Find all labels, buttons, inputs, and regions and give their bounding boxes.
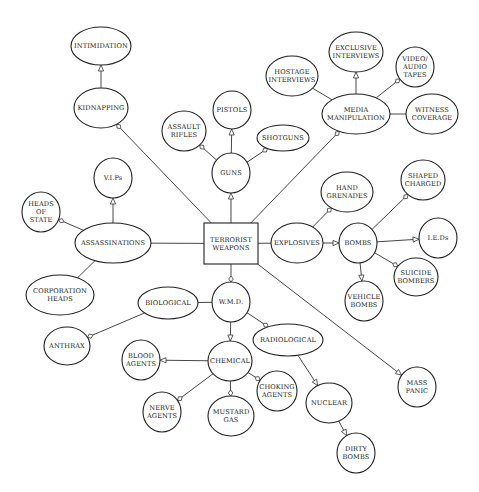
connector-line (204, 149, 216, 160)
connector-line (248, 372, 255, 377)
node-wmd[interactable]: W.M.D. (212, 282, 250, 322)
node-label: GUNS (220, 169, 242, 177)
node-biological[interactable]: BIOLOGICAL (138, 287, 198, 319)
node-label: PISTOLS (217, 106, 248, 114)
node-label: GAS (224, 416, 239, 424)
edge-explosives-to-hand-grenades (313, 208, 332, 227)
node-guns[interactable]: GUNS (212, 153, 250, 193)
edge-guns-to-shotguns (247, 148, 267, 162)
node-label: INTERVIEWS (333, 52, 380, 60)
edge-wmd-to-radiological (247, 313, 268, 327)
diamond-arrowhead-icon (335, 131, 339, 135)
connector-line (64, 222, 83, 230)
connector-line (376, 83, 395, 98)
node-terrorist-weapons[interactable]: TERRORISTWEAPONS (204, 223, 258, 264)
node-nerve-agents[interactable]: NERVEAGENTS (143, 392, 181, 432)
node-label: EXCLUSIVE (335, 44, 377, 52)
node-media-manipulation[interactable]: MEDIAMANIPULATION (322, 94, 390, 134)
diamond-arrowhead-icon (263, 148, 268, 152)
node-label: ASSASSINATIONS (80, 239, 146, 247)
nodes-layer: TERRORISTWEAPONSINTIMIDATIONKIDNAPPINGAS… (22, 27, 458, 473)
node-kidnapping[interactable]: KIDNAPPING (74, 88, 128, 128)
node-label: MANIPULATION (327, 114, 385, 122)
node-label: AUDIO (402, 63, 428, 71)
edge-kidnapping-to-intimidation (98, 65, 103, 88)
node-video-audio-tapes[interactable]: VIDEO/AUDIOTAPES (396, 47, 434, 87)
triangle-arrowhead-icon (395, 369, 401, 375)
diamond-arrowhead-icon (327, 208, 331, 212)
edge-guns-to-assault-rifles (200, 145, 217, 160)
connector-line (93, 313, 145, 335)
edge-assassinations-to-heads-of-state (59, 219, 84, 231)
connector-line (313, 212, 327, 227)
edge-chemical-to-nerve-agents (177, 374, 213, 401)
node-shaped-charged[interactable]: SHAPEDCHARGED (401, 160, 445, 200)
edge-assassinations-to-corporation-heads (77, 261, 95, 278)
node-label: ANTHRAX (48, 342, 85, 350)
node-mass-panic[interactable]: MASSPANIC (398, 367, 436, 407)
node-hand-grenades[interactable]: HANDGRENADES (321, 172, 373, 212)
node-label: V.I.Ps (103, 174, 123, 182)
node-ieds[interactable]: I.E.Ds (419, 218, 457, 258)
node-label: COVERAGE (412, 114, 453, 122)
node-vips[interactable]: V.I.Ps (94, 158, 132, 198)
node-radiological[interactable]: RADIOLOGICAL (253, 324, 323, 356)
node-label: MUSTARD (213, 408, 250, 416)
node-label: MASS (407, 379, 428, 387)
node-label: HOSTAGE (274, 68, 309, 76)
node-assassinations[interactable]: ASSASSINATIONS (75, 223, 151, 263)
edge-radiological-to-nuclear (298, 355, 318, 385)
diagram-canvas: TERRORISTWEAPONSINTIMIDATIONKIDNAPPINGAS… (0, 0, 479, 492)
node-blood-agents[interactable]: BLOODAGENTS (122, 340, 160, 380)
node-label: ASSAULT (167, 123, 201, 131)
node-corporation-heads[interactable]: CORPORATIONHEADS (26, 275, 94, 315)
node-bombs[interactable]: BOMBS (339, 223, 377, 263)
edge-terrorist-weapons-to-guns (228, 193, 233, 223)
edge-guns-to-pistols (229, 129, 234, 153)
triangle-arrowhead-icon (353, 72, 358, 78)
node-explosives[interactable]: EXPLOSIVES (271, 223, 323, 263)
triangle-arrowhead-icon (341, 429, 346, 436)
edge-bombs-to-suicide-bombers (375, 253, 398, 267)
node-heads-of-state[interactable]: HEADSOFSTATE (22, 192, 60, 232)
node-chemical[interactable]: CHEMICAL (208, 341, 252, 381)
node-label: AGENTS (261, 391, 293, 399)
node-intimidation[interactable]: INTIMIDATION (71, 27, 131, 65)
node-label: NUCLEAR (311, 399, 348, 407)
node-label: PANIC (406, 387, 429, 395)
edge-chemical-to-choking-agents (248, 372, 260, 380)
diamond-arrowhead-icon (395, 79, 400, 83)
node-dirty-bombs[interactable]: DIRTYBOMBS (337, 433, 375, 473)
node-suicide-bombers[interactable]: SUICIDEBOMBERS (394, 258, 438, 296)
diamond-arrowhead-icon (255, 377, 260, 381)
node-anthrax[interactable]: ANTHRAX (44, 327, 90, 365)
node-nuclear[interactable]: NUCLEAR (306, 383, 352, 423)
node-exclusive-interviews[interactable]: EXCLUSIVEINTERVIEWS (329, 32, 383, 72)
node-hostage-interviews[interactable]: HOSTAGEINTERVIEWS (266, 56, 318, 96)
connector-line (182, 374, 213, 397)
node-label: SHAPED (408, 172, 438, 180)
triangle-arrowhead-icon (228, 335, 233, 341)
connector-line (360, 263, 361, 275)
node-choking-agents[interactable]: CHOKINGAGENTS (257, 371, 297, 411)
connector-line (375, 253, 393, 264)
node-vehicle-bombs[interactable]: VEHICLEBOMBS (345, 281, 383, 321)
node-assault-rifles[interactable]: ASSAULTRIFLES (162, 111, 206, 151)
edge-assassinations-to-vips (110, 198, 115, 223)
edge-chemical-to-mustard-gas (228, 381, 233, 396)
triangle-arrowhead-icon (229, 129, 234, 135)
node-shotguns[interactable]: SHOTGUNS (257, 125, 309, 151)
diamond-arrowhead-icon (200, 145, 204, 149)
node-label: TERRORIST (210, 236, 252, 244)
node-witness-coverage[interactable]: WITNESSCOVERAGE (406, 94, 458, 134)
node-label: VEHICLE (347, 293, 381, 301)
node-label: INTIMIDATION (74, 42, 128, 50)
diamond-arrowhead-icon (228, 390, 233, 396)
node-label: BOMBERS (398, 277, 435, 285)
triangle-arrowhead-icon (98, 65, 103, 71)
edge-bombs-to-vehicle-bombs (359, 263, 364, 281)
node-mustard-gas[interactable]: MUSTARDGAS (208, 396, 254, 436)
node-pistols[interactable]: PISTOLS (213, 91, 251, 129)
node-label: BLOOD (128, 352, 154, 360)
node-label: STATE (30, 216, 53, 224)
